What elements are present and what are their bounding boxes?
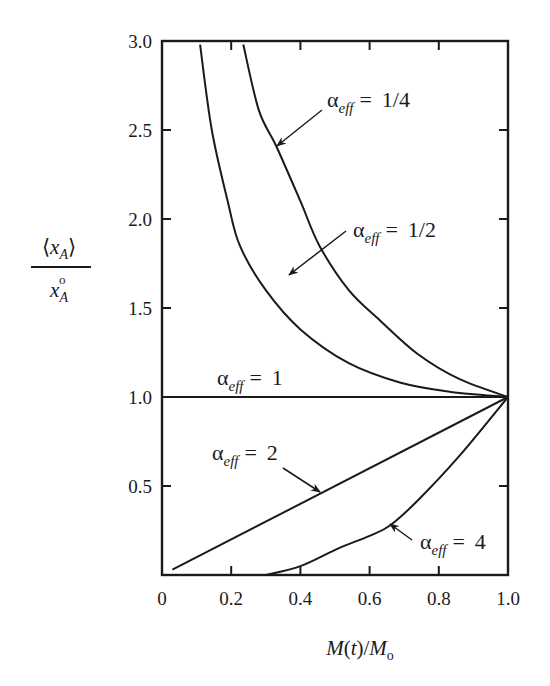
x-tick-label: 0.8 [427,588,451,609]
y-tick-label: 2.5 [128,120,152,141]
annotation-arrow [390,524,412,540]
annotation-arrow [277,110,322,146]
x-axis-title: M(t)/Mo [325,636,394,663]
y-axis-numerator: ⟨xA⟩ [42,235,76,262]
y-axis-title: ⟨xA⟩ xAo [31,235,91,305]
curve-annotations: αeff= 1/4αeff= 1/2αeff= 1αeff= 2αeff= 4 [212,87,486,558]
y-axis-denominator: xAo [49,272,68,305]
chart: 00.20.40.60.81.00.51.01.52.02.53.0 αeff=… [0,0,550,686]
curve-label: αeff= 1/2 [353,217,436,246]
annotation-arrow [283,468,320,492]
y-tick-label: 1.5 [128,298,152,319]
annotation-arrow [289,231,346,275]
x-tick-label: 0 [157,588,167,609]
curve-label: αeff= 4 [420,529,486,558]
axis-tick-labels: 00.20.40.60.81.00.51.01.52.02.53.0 [128,31,520,609]
x-tick-label: 0.6 [358,588,382,609]
curve-label: αeff= 1/4 [327,87,410,116]
axis-ticks [162,41,508,575]
y-tick-label: 0.5 [128,476,152,497]
curve-label: αeff= 2 [212,440,278,469]
x-tick-label: 0.2 [219,588,243,609]
curve-label: αeff= 1 [217,365,283,394]
y-tick-label: 3.0 [128,31,152,52]
plot-frame [162,41,508,575]
x-tick-label: 0.4 [289,588,313,609]
plot-border [162,41,508,575]
data-curves [162,45,508,575]
y-tick-label: 2.0 [128,209,152,230]
y-tick-label: 1.0 [128,387,152,408]
x-tick-label: 1.0 [496,588,520,609]
